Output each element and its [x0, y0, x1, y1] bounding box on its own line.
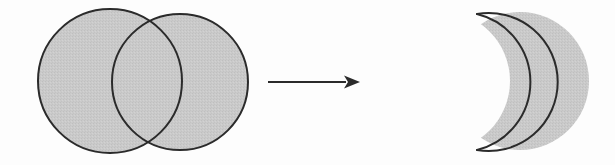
figure-container: Boolean subtraction of two overlapping c…	[0, 0, 615, 165]
operand-group	[38, 9, 248, 153]
diagram-canvas	[0, 0, 615, 165]
arrow-head-icon	[344, 76, 360, 89]
result-crescent[interactable]	[400, 0, 615, 165]
transform-arrow	[268, 76, 360, 89]
crescent-fill	[400, 0, 615, 165]
